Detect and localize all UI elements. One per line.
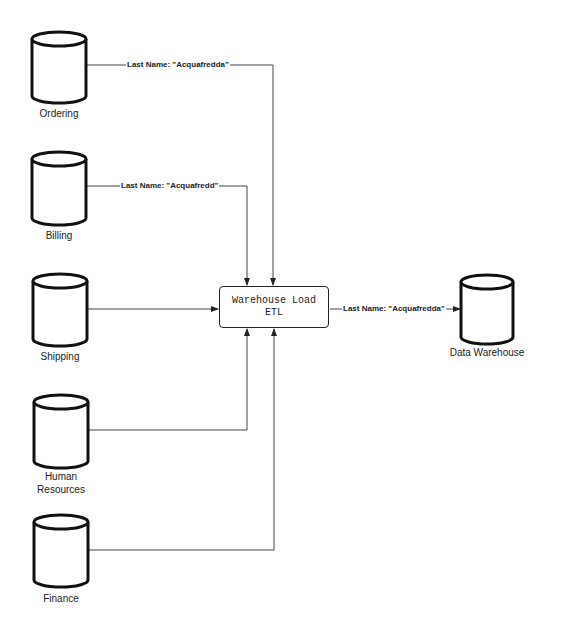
process-label-line-2: ETL	[265, 307, 283, 319]
db-label-text: Billing	[46, 230, 73, 241]
db-label-text: Ordering	[40, 108, 79, 119]
edge-label-billing: Last Name: "Acquafredd"	[120, 181, 219, 191]
db-cylinder-human-resources[interactable]	[34, 395, 88, 468]
db-label-text: Data Warehouse	[450, 347, 525, 358]
process-box-warehouse-load-etl[interactable]: Warehouse Load ETL	[219, 286, 329, 328]
db-label-text: Shipping	[41, 351, 80, 362]
db-cylinder-finance[interactable]	[34, 515, 88, 587]
db-label-human-resources: Human Resources	[1, 470, 121, 496]
db-label-billing: Billing	[0, 229, 119, 242]
db-label-finance: Finance	[1, 592, 121, 605]
db-label-ordering: Ordering	[0, 107, 119, 120]
process-label-line-1: Warehouse Load	[232, 295, 316, 307]
edge-label-data-warehouse: Last Name: "Acquafredda"	[342, 304, 446, 314]
db-label-shipping: Shipping	[0, 350, 120, 363]
db-label-data-warehouse: Data Warehouse	[427, 346, 547, 359]
edge-label-ordering: Last Name: "Acquafredda"	[126, 60, 230, 70]
edge-ordering-etl[interactable]	[86, 65, 273, 285]
db-cylinder-data-warehouse[interactable]	[461, 275, 513, 344]
db-label-text-line-2: Resources	[1, 483, 121, 496]
db-cylinder-shipping[interactable]	[33, 274, 87, 346]
db-cylinder-ordering[interactable]	[32, 32, 86, 103]
db-label-text: Finance	[43, 593, 79, 604]
edge-hr-etl[interactable]	[86, 329, 247, 430]
db-cylinder-billing[interactable]	[32, 152, 86, 225]
db-label-text-line-1: Human	[1, 470, 121, 483]
